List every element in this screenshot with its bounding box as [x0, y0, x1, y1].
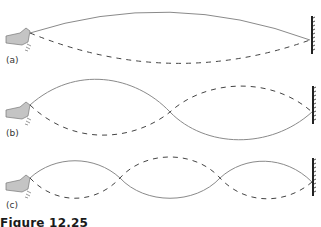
panel-label-c: (c)	[6, 200, 18, 210]
panel-b	[6, 79, 316, 139]
wall-icon	[313, 158, 316, 196]
hand-icon	[6, 175, 31, 198]
wall-icon	[312, 16, 315, 54]
hand-icon	[6, 102, 31, 125]
string-solid	[30, 79, 312, 139]
panel-label-a: (a)	[6, 55, 19, 65]
string-dashed	[30, 33, 310, 63]
figure-caption: Figure 12.25	[0, 216, 88, 227]
wall-icon	[313, 86, 316, 124]
string-dashed	[30, 86, 312, 135]
panel-a	[6, 12, 315, 63]
string-solid	[30, 161, 312, 199]
string-solid	[30, 12, 310, 40]
panel-c	[6, 157, 316, 199]
standing-waves-diagram	[0, 0, 321, 227]
hand-icon	[6, 28, 31, 51]
panel-label-b: (b)	[6, 128, 19, 138]
string-dashed	[30, 157, 312, 199]
